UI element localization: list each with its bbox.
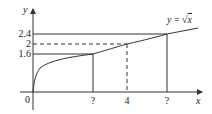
y-tick-1.6: 1.6 — [19, 48, 32, 59]
x-tick-q2: ? — [165, 95, 170, 106]
origin-label: 0 — [25, 94, 30, 105]
sqrt-diagram: y x 0 2.4 2 1.6 ? 4 ? y = √x — [0, 0, 212, 114]
sqrt-curve — [33, 28, 198, 92]
x-axis-label: x — [195, 95, 201, 106]
x-tick-q1: ? — [91, 95, 96, 106]
x-tick-4: 4 — [125, 95, 130, 106]
curve-label: y = √x — [166, 14, 193, 25]
y-axis-label: y — [22, 4, 28, 15]
